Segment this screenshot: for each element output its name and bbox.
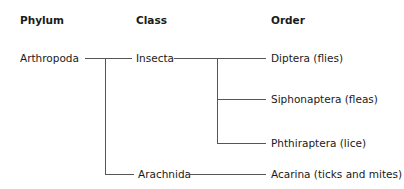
connector-insecta-vertical <box>217 58 218 144</box>
node-acarina: Acarina (ticks and mites) <box>271 168 402 180</box>
connector-to-siphonaptera <box>217 99 266 100</box>
header-phylum: Phylum <box>20 14 64 26</box>
node-insecta: Insecta <box>136 52 174 64</box>
node-diptera: Diptera (flies) <box>271 52 343 64</box>
connector-insecta-diptera <box>174 58 266 59</box>
node-siphonaptera: Siphonaptera (fleas) <box>271 93 378 105</box>
header-order: Order <box>271 14 305 26</box>
connector-arachnida-acarina <box>186 174 266 175</box>
connector-to-arachnida <box>105 174 134 175</box>
node-phthiraptera: Phthiraptera (lice) <box>271 137 366 149</box>
connector-to-phthiraptera <box>217 143 266 144</box>
connector-phylum-vertical <box>105 58 106 175</box>
header-class: Class <box>136 14 167 26</box>
node-arthropoda: Arthropoda <box>20 52 79 64</box>
connector-arthropoda-insecta <box>85 58 132 59</box>
node-arachnida: Arachnida <box>138 168 191 180</box>
